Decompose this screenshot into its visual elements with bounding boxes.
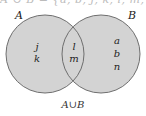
element-a-only: j — [31, 41, 43, 53]
element-a-only: k — [31, 53, 43, 65]
set-label-a: A — [15, 9, 23, 22]
element-b-only: n — [111, 61, 123, 73]
venn-diagram: A ∪ B = {a, b, j, k, l, m, n} A B j k l … — [0, 0, 146, 116]
element-b-only: b — [111, 48, 123, 60]
set-label-b: B — [128, 9, 136, 22]
element-b-only: a — [111, 35, 123, 47]
element-intersection: m — [68, 53, 80, 65]
diagram-caption: A∪B — [0, 99, 146, 110]
element-intersection: l — [68, 41, 80, 53]
